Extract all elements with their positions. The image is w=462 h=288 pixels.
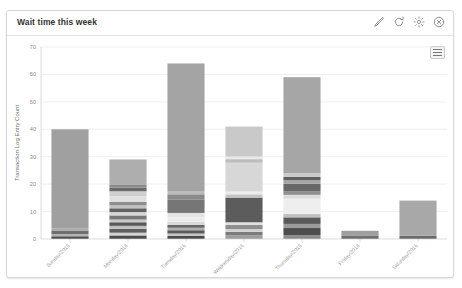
y-tick-label: 30 [30,154,36,160]
bar-segment [225,156,262,159]
bar-segment [283,180,320,184]
bar-segment [167,191,204,194]
bar-segment [399,236,436,239]
bar-segment [283,217,320,224]
bar-segment [109,205,146,208]
bar-segment [341,235,378,239]
y-tick-label: 0 [33,236,36,242]
bar-segment [167,228,204,230]
y-tick-label: 10 [30,209,36,215]
bar-segment [283,224,320,228]
bar-segment [109,212,146,215]
settings-icon[interactable] [413,16,425,28]
x-tick-label: Wednesday/2016 [212,242,245,275]
x-tick-label: Friday/2016 [337,242,361,266]
bar-segment [167,63,204,191]
bar-segment [167,234,204,236]
bar[interactable] [51,129,88,239]
x-tick-label: Tuesday/2016 [159,242,186,269]
bar-segment [225,232,262,235]
x-tick-label: Thursday/2016 [274,242,303,271]
bar-segment [109,226,146,229]
bar-segment [109,235,146,239]
y-axis-tick-labels: 010203040506070 [30,44,36,242]
bar-chart: 010203040506070 Sunday/2016Monday/2016Tu… [7,36,455,279]
bar-segment [109,159,146,185]
refresh-icon[interactable] [393,16,405,28]
bar-segment [283,228,320,235]
bar[interactable] [109,159,146,239]
bar-segment [51,129,88,228]
bar-segment [283,173,320,177]
bar-segment [225,194,262,197]
bar-segment [109,229,146,233]
page-title: Wait time this week [17,17,97,27]
bar-segment [109,208,146,212]
bar-segment [225,235,262,239]
bar-segment [51,228,88,230]
bar-segment [51,231,88,234]
bar-segment [109,233,146,236]
bar-segment [167,222,204,225]
bar-segment [51,234,88,236]
bar-segment [341,231,378,236]
bar-segment [399,201,436,236]
bar-segment [225,159,262,163]
bar-segment [167,236,204,239]
bar-segment [167,225,204,228]
edit-icon[interactable] [373,16,385,28]
bar-segment [167,200,204,213]
y-tick-label: 50 [30,99,36,105]
bar[interactable] [225,127,262,239]
x-tick-label: Sunday/2016 [45,242,71,268]
bar-segment [109,188,146,192]
bar-segment [225,163,262,192]
bar-segment [283,184,320,192]
x-tick-label: Saturday/2016 [391,242,419,270]
bar-segment [225,198,262,223]
bar-segment [283,195,320,199]
chart-plot-area: 010203040506070 Sunday/2016Monday/2016Tu… [7,36,453,279]
panel-toolbar [373,16,445,28]
bar-segment [225,229,262,232]
bar[interactable] [283,77,320,239]
bar-segment [109,222,146,226]
bar-segment [109,185,146,188]
bar-segment [225,127,262,157]
bar-segment [283,192,320,195]
bar-segment [283,199,320,214]
bar-segment [109,191,146,196]
y-axis-title-label: Transaction Log Entry Count [14,105,20,181]
y-axis-title: Transaction Log Entry Count [14,105,20,181]
panel-header: Wait time this week [7,11,453,36]
y-tick-label: 60 [30,71,36,77]
bar[interactable] [167,63,204,239]
bar-segment [167,213,204,217]
bar-segment [225,222,262,225]
y-tick-label: 70 [30,44,36,50]
bar-segment [283,177,320,180]
bar-segment [167,217,204,222]
chart-panel: Wait time this week [6,10,454,278]
bar[interactable] [341,231,378,239]
bar-segment [51,236,88,239]
y-tick-label: 20 [30,181,36,187]
bar-segment [225,192,262,195]
bar-segment [109,215,146,219]
bar-segment [167,230,204,233]
bar-segment [283,77,320,173]
x-tick-label: Monday/2016 [102,242,129,269]
bar-segment [283,214,320,217]
bars-group [51,63,436,239]
x-axis-tick-labels: Sunday/2016Monday/2016Tuesday/2016Wednes… [45,242,419,275]
bar-segment [109,220,146,223]
close-icon[interactable] [433,16,445,28]
y-tick-label: 40 [30,126,36,132]
bar-segment [167,194,204,199]
bar-segment [225,225,262,229]
bar-segment [283,235,320,239]
bar-segment [109,196,146,201]
bar[interactable] [399,201,436,239]
bar-segment [109,202,146,206]
